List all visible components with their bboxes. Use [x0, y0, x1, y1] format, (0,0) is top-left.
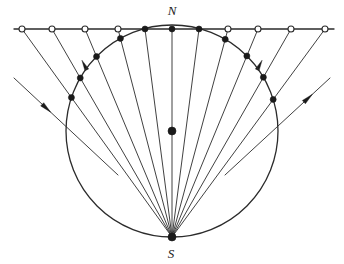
plane-point-filled	[169, 26, 175, 32]
sphere-point-dot	[68, 95, 74, 101]
sphere-point-dot	[117, 35, 123, 41]
plane-point-open	[19, 26, 25, 32]
sphere-center-dot	[168, 127, 176, 135]
projection-ray	[172, 29, 258, 237]
plane-point-filled	[196, 26, 202, 32]
north-pole-label: N	[167, 3, 178, 18]
plane-point-open	[288, 26, 294, 32]
sphere-point-dot	[270, 96, 276, 102]
plane-point-open	[115, 26, 121, 32]
ray-arrowhead	[302, 94, 312, 104]
projection-ray	[118, 29, 172, 237]
plane-point-open	[322, 26, 328, 32]
sphere-point-dot	[222, 36, 228, 42]
south-pole-label: S	[168, 246, 175, 261]
ray-arrowhead	[41, 103, 51, 113]
projection-ray	[172, 29, 291, 237]
plane-point-open	[255, 26, 261, 32]
plane-point-open	[225, 26, 231, 32]
sphere-point-dot	[260, 74, 266, 80]
projection-ray	[172, 29, 228, 237]
plane-point-filled	[142, 26, 148, 32]
projection-ray	[52, 29, 172, 237]
south-pole-dot	[168, 233, 176, 241]
plane-point-open	[49, 26, 55, 32]
sphere-point-dot	[94, 54, 100, 60]
plane-point-open	[82, 26, 88, 32]
sphere-point-dot	[244, 53, 250, 59]
stereographic-projection-figure: NS	[0, 0, 344, 264]
sphere-point-dot	[77, 75, 83, 81]
